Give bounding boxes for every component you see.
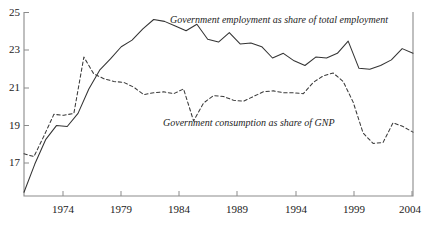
chart-container: 25 23 21 19 17 1974 1979 1984 1989 1994 … (0, 0, 427, 225)
annotation-government-employment: Government employment as share of total … (170, 14, 388, 25)
x-tick-label-1989: 1989 (217, 204, 257, 215)
x-tick-label-1999: 1999 (334, 204, 374, 215)
x-tick-marks (63, 191, 412, 196)
y-tick-label-17: 17 (0, 157, 20, 168)
line-chart-plot (0, 0, 427, 225)
y-tick-label-25: 25 (0, 7, 20, 18)
x-tick-label-1994: 1994 (276, 204, 316, 215)
y-tick-label-23: 23 (0, 44, 20, 55)
x-tick-label-1974: 1974 (43, 204, 83, 215)
x-tick-label-1984: 1984 (159, 204, 199, 215)
series-line-government-consumption (24, 57, 413, 157)
y-tick-label-19: 19 (0, 120, 20, 131)
y-tick-marks (24, 13, 29, 164)
x-tick-label-2004: 2004 (390, 204, 427, 215)
annotation-government-consumption: Government consumption as share of GNP (163, 117, 335, 128)
x-tick-label-1979: 1979 (101, 204, 141, 215)
y-tick-label-21: 21 (0, 82, 20, 93)
